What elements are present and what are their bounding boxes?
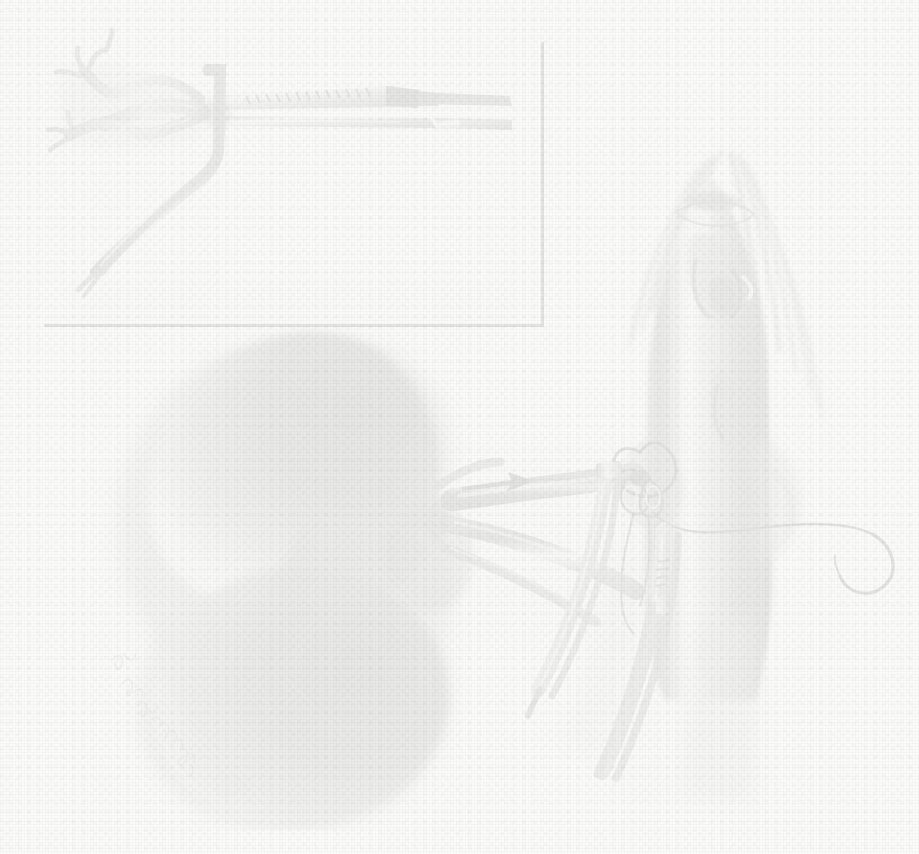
figure-canvas: Renal transplant vascular anastomosis of…: [0, 0, 919, 854]
clamp-jaws: [208, 86, 440, 128]
detail-inset-illustration: [0, 0, 919, 854]
page-bottom-margin: [0, 830, 919, 854]
branched-vessel-stump: [48, 30, 208, 150]
